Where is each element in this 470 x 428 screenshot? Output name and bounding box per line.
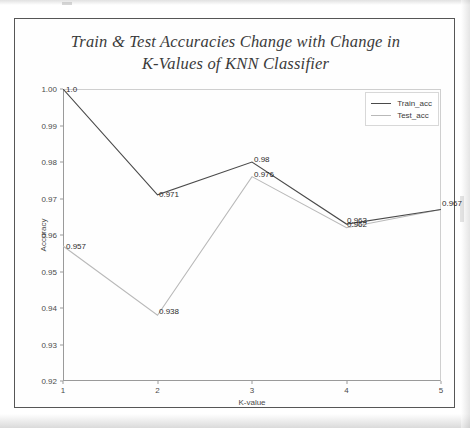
y-tick-label: 0.92 — [41, 377, 57, 386]
scanned-page: Train & Test Accuracies Change with Chan… — [0, 0, 470, 428]
chart-title-line1: Train & Test Accuracies Change with Chan… — [71, 32, 400, 51]
y-tick-label: 0.97 — [41, 194, 57, 203]
legend-entry-train: Train_acc — [371, 97, 432, 109]
legend-swatch-test — [371, 115, 391, 116]
point-label-train-3: 0.98 — [254, 155, 270, 164]
y-tick-label: 0.94 — [41, 304, 57, 313]
series-lines — [63, 89, 441, 381]
legend-entry-test: Test_acc — [371, 109, 432, 121]
x-tick-mark — [157, 381, 158, 384]
point-label-test-2: 0.938 — [159, 307, 179, 316]
y-tick-label: 0.98 — [41, 158, 57, 167]
y-tick-label: 1.00 — [41, 85, 57, 94]
x-tick-mark — [252, 381, 253, 384]
line-test-acc — [63, 177, 441, 316]
x-tick-mark — [441, 381, 442, 384]
y-axis-label: Accuracy — [39, 219, 48, 252]
x-tick-mark — [346, 381, 347, 384]
point-label-test-1: 0.957 — [66, 242, 86, 251]
x-tick-label: 5 — [439, 386, 443, 395]
chart-title: Train & Test Accuracies Change with Chan… — [15, 31, 456, 75]
legend-label-train: Train_acc — [397, 99, 432, 108]
y-tick-label: 0.93 — [41, 340, 57, 349]
x-tick-label: 1 — [61, 386, 65, 395]
x-tick-label: 4 — [344, 386, 348, 395]
y-tick-label: 0.99 — [41, 121, 57, 130]
scan-speck — [62, 2, 72, 5]
legend-label-test: Test_acc — [397, 111, 429, 120]
y-tick-label: 0.95 — [41, 267, 57, 276]
point-label-test-4: 0.962 — [347, 220, 367, 229]
point-label-test-3: 0.976 — [254, 170, 274, 179]
legend: Train_acc Test_acc — [365, 92, 439, 126]
x-tick-label: 2 — [155, 386, 159, 395]
x-axis-label: K-value — [63, 398, 441, 407]
point-label-train-2: 0.971 — [159, 190, 179, 199]
point-label-train-1: 1.0 — [66, 85, 77, 94]
scan-edge-bottom — [0, 414, 470, 428]
plot-area: 0.92 0.93 0.94 0.95 0.96 0.97 0.98 0.99 … — [63, 89, 441, 381]
legend-swatch-train — [371, 103, 391, 104]
chart-title-line2: K-Values of KNN Classifier — [15, 53, 456, 75]
x-tick-label: 3 — [250, 386, 254, 395]
x-tick-mark — [63, 381, 64, 384]
figure-frame: Train & Test Accuracies Change with Chan… — [14, 18, 455, 408]
